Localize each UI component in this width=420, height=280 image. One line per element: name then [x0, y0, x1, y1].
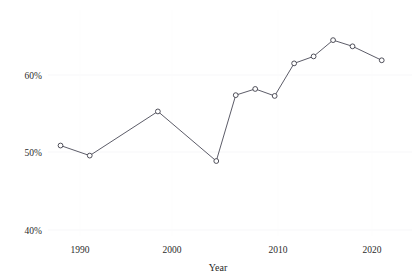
- data-point-marker: [331, 38, 336, 43]
- series-line: [61, 40, 382, 161]
- x-tick-label-1990: 1990: [71, 245, 90, 255]
- data-point-marker: [292, 61, 297, 66]
- data-point-marker: [233, 93, 238, 98]
- y-tick-label-50: 50%: [25, 148, 43, 158]
- data-point-marker: [311, 54, 316, 59]
- y-tick-label-40: 40%: [25, 226, 43, 236]
- x-axis-tick-labels: 1990 2000 2010 2020: [71, 245, 382, 255]
- series-group: [58, 38, 384, 164]
- data-point-marker: [253, 87, 258, 92]
- x-axis-title: Year: [209, 262, 228, 273]
- chart-container: 60% 50% 40% 1990 2000 2010 2020 Year: [0, 0, 420, 280]
- data-point-marker: [87, 153, 92, 158]
- x-tick-label-2020: 2020: [363, 245, 382, 255]
- data-point-marker: [272, 94, 277, 99]
- x-tick-label-2010: 2010: [269, 245, 288, 255]
- background-gridlines: [48, 10, 412, 236]
- data-point-marker: [155, 109, 160, 114]
- x-tick-label-2000: 2000: [163, 245, 182, 255]
- y-axis-tick-labels: 60% 50% 40%: [25, 71, 43, 236]
- y-tick-label-60: 60%: [25, 71, 43, 81]
- data-point-marker: [350, 44, 355, 49]
- line-chart: 60% 50% 40% 1990 2000 2010 2020 Year: [0, 0, 420, 280]
- data-point-marker: [214, 159, 219, 164]
- data-point-marker: [379, 58, 384, 63]
- data-point-marker: [58, 143, 63, 148]
